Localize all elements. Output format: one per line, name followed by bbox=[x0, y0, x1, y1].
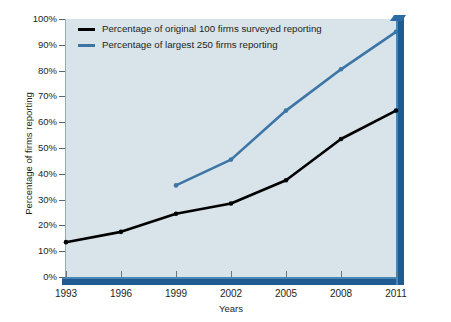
data-point bbox=[229, 157, 234, 162]
data-point bbox=[119, 230, 124, 235]
series-line-1 bbox=[66, 111, 396, 243]
legend-swatch-series-2 bbox=[78, 44, 95, 47]
data-point bbox=[174, 211, 179, 216]
data-point bbox=[284, 108, 289, 113]
data-point bbox=[394, 108, 399, 113]
data-point bbox=[339, 67, 344, 72]
legend-label-series-1: Percentage of original 100 firms surveye… bbox=[102, 24, 322, 34]
data-point bbox=[284, 178, 289, 183]
data-point bbox=[394, 30, 399, 35]
data-point bbox=[229, 201, 234, 206]
line-chart: 100%90%80%70%60%50%40%30%20%10%0% 199319… bbox=[0, 0, 451, 322]
legend-item: Percentage of largest 250 firms reportin… bbox=[78, 40, 322, 50]
legend-swatch-series-1 bbox=[78, 28, 95, 31]
legend-label-series-2: Percentage of largest 250 firms reportin… bbox=[102, 40, 278, 50]
legend-item: Percentage of original 100 firms surveye… bbox=[78, 24, 322, 34]
data-point bbox=[339, 137, 344, 142]
legend: Percentage of original 100 firms surveye… bbox=[78, 24, 322, 50]
data-point bbox=[174, 183, 179, 188]
data-point bbox=[64, 240, 69, 245]
